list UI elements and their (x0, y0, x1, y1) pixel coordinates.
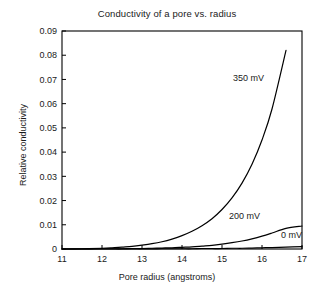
y-tick-label: 0.02 (39, 196, 57, 206)
plot-background (62, 31, 302, 249)
plot-area: 11121314151617 00.010.020.030.040.050.06… (0, 0, 334, 298)
y-tick-label: 0.04 (39, 147, 57, 157)
x-tick-label: 12 (97, 254, 107, 264)
y-tick-label: 0.08 (39, 50, 57, 60)
x-tick-label: 13 (137, 254, 147, 264)
x-tick-label: 15 (217, 254, 227, 264)
y-tick-label: 0.09 (39, 26, 57, 36)
y-tick-label: 0.07 (39, 75, 57, 85)
y-tick-label: 0.06 (39, 99, 57, 109)
y-tick-label: 0.03 (39, 172, 57, 182)
annotation-0-mv: 0 mV (281, 230, 302, 240)
y-tick-label: 0.05 (39, 123, 57, 133)
y-tick-labels: 00.010.020.030.040.050.060.070.080.09 (39, 26, 57, 254)
x-tick-label: 16 (257, 254, 267, 264)
x-tick-label: 11 (57, 254, 66, 264)
annotation-350-mv: 350 mV (233, 73, 264, 83)
annotation-200-mv: 200 mV (229, 211, 260, 221)
x-tick-label: 17 (297, 254, 307, 264)
y-tick-label: 0.01 (39, 220, 57, 230)
x-tick-labels: 11121314151617 (57, 254, 307, 264)
y-tick-label: 0 (52, 244, 57, 254)
x-tick-label: 14 (177, 254, 187, 264)
chart-figure: Conductivity of a pore vs. radius Relati… (0, 0, 334, 298)
